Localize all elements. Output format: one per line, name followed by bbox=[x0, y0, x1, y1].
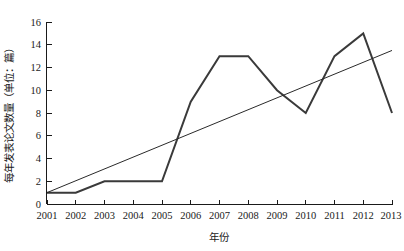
publications-per-year-line-chart: 0 2 4 6 8 10 12 14 16 每年发表论文数量（单位：篇） bbox=[0, 0, 404, 251]
y-axis-group: 0 2 4 6 8 10 12 14 16 每年发表论文数量（单位：篇） bbox=[3, 17, 52, 210]
x-tick-label-2007: 2007 bbox=[209, 210, 230, 221]
y-tick-label-10: 10 bbox=[31, 85, 42, 96]
x-tick-label-2013: 2013 bbox=[381, 210, 402, 221]
x-tick-label-2006: 2006 bbox=[180, 210, 201, 221]
x-axis-ticks bbox=[47, 200, 392, 205]
x-tick-label-2005: 2005 bbox=[152, 210, 173, 221]
y-tick-label-16: 16 bbox=[31, 17, 42, 28]
y-axis-title: 每年发表论文数量（单位：篇） bbox=[3, 43, 15, 183]
y-tick-label-6: 6 bbox=[36, 130, 41, 141]
y-tick-label-0: 0 bbox=[36, 199, 41, 210]
x-tick-label-2009: 2009 bbox=[267, 210, 288, 221]
y-axis-ticks bbox=[47, 22, 52, 204]
x-tick-label-2001: 2001 bbox=[37, 210, 58, 221]
trend-line bbox=[47, 50, 392, 192]
x-axis-tick-labels: 2001 2002 2003 2004 2005 2006 2007 2008 … bbox=[37, 210, 402, 221]
x-axis-group: 2001 2002 2003 2004 2005 2006 2007 2008 … bbox=[37, 200, 402, 244]
chart-container: 0 2 4 6 8 10 12 14 16 每年发表论文数量（单位：篇） bbox=[0, 0, 404, 251]
x-axis-title: 年份 bbox=[209, 231, 230, 243]
y-tick-label-12: 12 bbox=[31, 62, 42, 73]
y-axis-tick-labels: 0 2 4 6 8 10 12 14 16 bbox=[31, 17, 42, 210]
y-tick-label-2: 2 bbox=[36, 176, 41, 187]
x-tick-label-2004: 2004 bbox=[123, 210, 145, 221]
x-tick-label-2003: 2003 bbox=[94, 210, 115, 221]
y-tick-label-4: 4 bbox=[36, 153, 42, 164]
x-tick-label-2010: 2010 bbox=[295, 210, 316, 221]
y-tick-label-8: 8 bbox=[36, 108, 41, 119]
x-tick-label-2012: 2012 bbox=[353, 210, 374, 221]
publications-series-line bbox=[47, 33, 392, 192]
x-tick-label-2002: 2002 bbox=[65, 210, 86, 221]
x-tick-label-2008: 2008 bbox=[238, 210, 259, 221]
y-tick-label-14: 14 bbox=[31, 39, 42, 50]
x-tick-label-2011: 2011 bbox=[324, 210, 345, 221]
